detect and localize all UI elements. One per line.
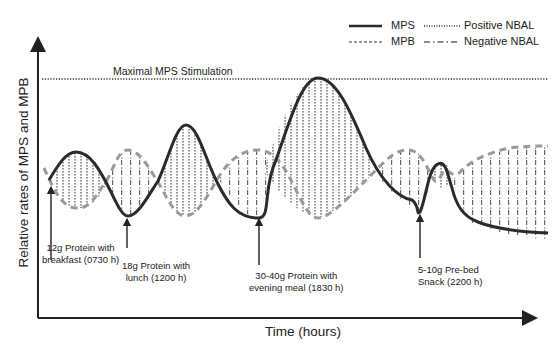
annotation-prebed: 5-10g Pre-bed Snack (2200 h) bbox=[418, 264, 482, 288]
annotation-prebed-line1: 5-10g Pre-bed bbox=[418, 264, 482, 276]
y-axis-label: Relative rates of MPS and MPB bbox=[16, 73, 31, 273]
legend-positive-nbal-label: Positive NBAL bbox=[464, 19, 534, 31]
annotation-breakfast: 12g Protein with breakfast (0730 h) bbox=[42, 242, 119, 266]
annotation-evening-line1: 30-40g Protein with bbox=[249, 270, 344, 282]
annotation-lunch-line2: lunch (1200 h) bbox=[122, 272, 190, 284]
legend-mps-label: MPS bbox=[391, 19, 415, 31]
maximal-mps-label: Maximal MPS Stimulation bbox=[113, 65, 233, 77]
legend-negative-nbal-label: Negative NBAL bbox=[464, 35, 539, 47]
legend-mpb-label: MPB bbox=[391, 35, 415, 47]
x-axis-label: Time (hours) bbox=[265, 324, 341, 339]
annotation-evening: 30-40g Protein with evening meal (1830 h… bbox=[249, 270, 344, 294]
annotation-lunch-line1: 18g Protein with bbox=[122, 260, 190, 272]
annotation-breakfast-line2: breakfast (0730 h) bbox=[42, 254, 119, 266]
annotation-prebed-line2: Snack (2200 h) bbox=[418, 276, 482, 288]
chart-canvas bbox=[0, 0, 554, 352]
annotation-lunch: 18g Protein with lunch (1200 h) bbox=[122, 260, 190, 284]
annotation-breakfast-line1: 12g Protein with bbox=[42, 242, 119, 254]
annotation-evening-line2: evening meal (1830 h) bbox=[249, 282, 344, 294]
